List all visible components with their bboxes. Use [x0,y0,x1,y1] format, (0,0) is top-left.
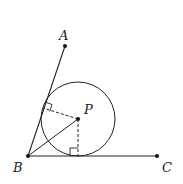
label-B: B [12,160,23,175]
right-angle-mark-BC [70,148,78,156]
segment-BP [28,119,78,156]
geometry-diagram: A B C P [0,0,183,184]
segment-BA [28,46,65,156]
point-A [63,44,67,48]
point-C [155,154,159,158]
label-A: A [58,28,68,43]
label-P: P [83,102,93,117]
dashed-perpendicular-to-BA [43,108,78,119]
point-P [76,117,80,121]
point-B [26,154,30,158]
label-C: C [162,160,172,175]
